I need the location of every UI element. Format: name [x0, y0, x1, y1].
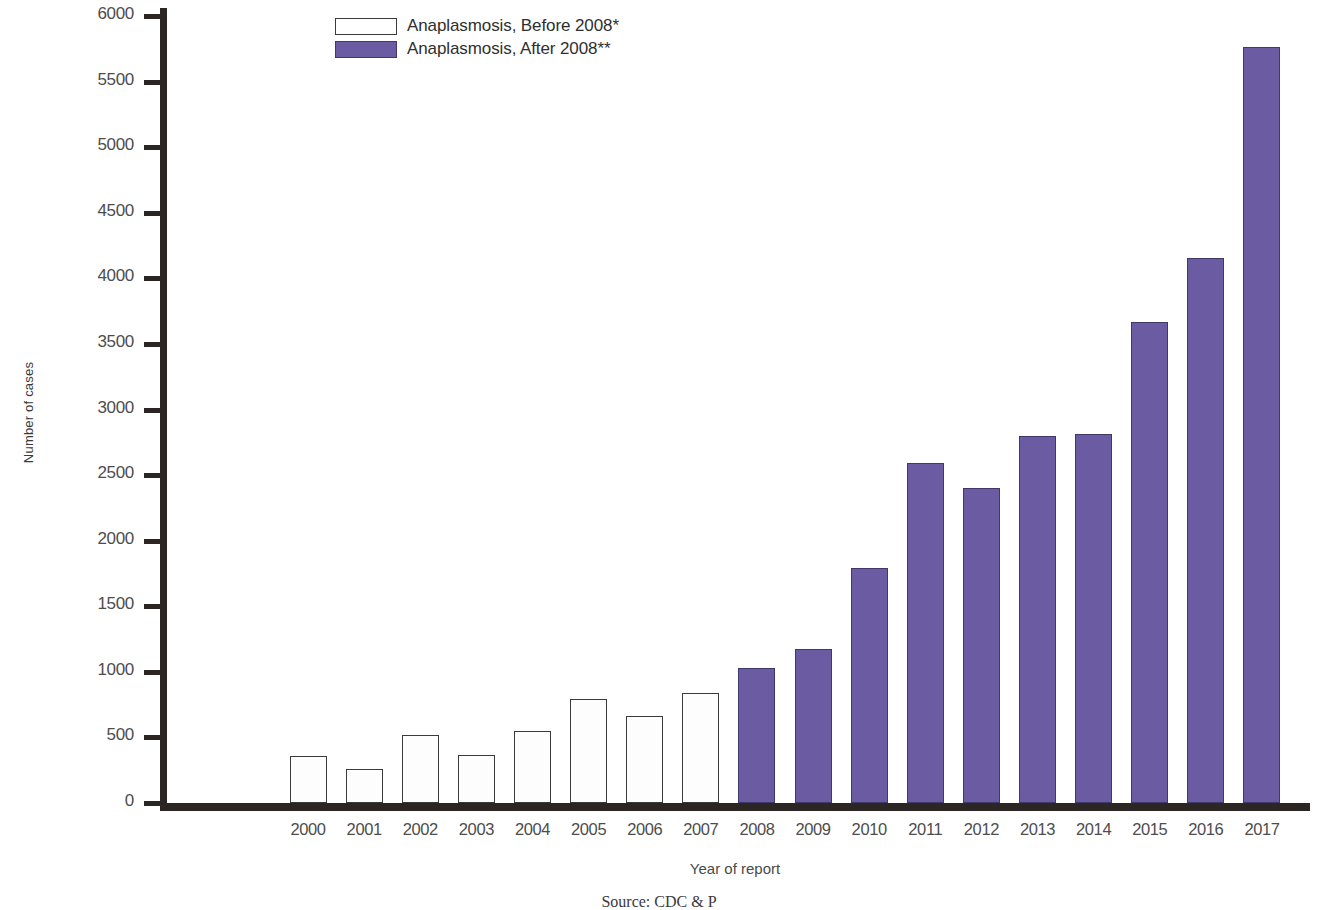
x-axis-tick-label-2008: 2008: [729, 820, 785, 839]
x-axis-tick-label-2013: 2013: [1009, 820, 1065, 839]
y-axis-tick: [144, 670, 162, 675]
x-axis-tick-label-2016: 2016: [1178, 820, 1234, 839]
y-axis-tick-label: 4000: [42, 266, 134, 286]
chart-legend: Anaplasmosis, Before 2008*Anaplasmosis, …: [335, 16, 619, 59]
x-axis-tick-label-2007: 2007: [673, 820, 729, 839]
bar-2015: [1131, 322, 1168, 803]
y-axis-tick-label: 0: [42, 791, 134, 811]
y-axis-tick-label: 2000: [42, 529, 134, 549]
y-axis-tick: [144, 473, 162, 478]
bar-2006: [626, 716, 663, 803]
bar-2004: [514, 731, 551, 803]
bar-2000: [290, 756, 327, 803]
bar-2014: [1075, 434, 1112, 803]
x-axis-tick-label-2012: 2012: [953, 820, 1009, 839]
legend-item-2[interactable]: Anaplasmosis, After 2008**: [335, 39, 619, 59]
bar-2008: [738, 668, 775, 803]
legend-swatch-before: [335, 18, 397, 35]
bar-2007: [682, 693, 719, 803]
y-axis-tick: [144, 801, 162, 806]
legend-label: Anaplasmosis, Before 2008*: [407, 16, 619, 36]
y-axis-tick: [144, 14, 162, 19]
y-axis-tick-label: 6000: [42, 4, 134, 24]
x-axis-tick-label-2011: 2011: [897, 820, 953, 839]
anaplasmosis-cases-bar-chart: Number of cases 050010001500200025003000…: [0, 0, 1318, 910]
legend-label: Anaplasmosis, After 2008**: [407, 39, 610, 59]
y-axis-title: Number of cases: [21, 333, 36, 493]
x-axis-tick-label-2005: 2005: [561, 820, 617, 839]
y-axis-tick: [144, 735, 162, 740]
y-axis-tick: [144, 211, 162, 216]
bar-2017: [1243, 47, 1280, 803]
y-axis-tick-label: 3000: [42, 398, 134, 418]
y-axis-tick-label: 1500: [42, 594, 134, 614]
y-axis-tick-label: 3500: [42, 332, 134, 352]
x-axis-tick-label-2006: 2006: [617, 820, 673, 839]
x-axis-tick-label-2010: 2010: [841, 820, 897, 839]
plot-area: 0500100015002000250030003500400045005000…: [160, 8, 1310, 808]
source-note: Source: CDC & P: [0, 893, 1318, 910]
x-axis-tick-label-2014: 2014: [1066, 820, 1122, 839]
x-axis-tick-label-2000: 2000: [280, 820, 336, 839]
y-axis-tick: [144, 604, 162, 609]
bar-2001: [346, 769, 383, 803]
x-axis-tick-label-2009: 2009: [785, 820, 841, 839]
bar-2010: [851, 568, 888, 803]
x-axis-tick-label-2003: 2003: [448, 820, 504, 839]
x-axis-tick-label-2015: 2015: [1122, 820, 1178, 839]
y-axis-tick-label: 2500: [42, 463, 134, 483]
y-axis-tick-label: 4500: [42, 201, 134, 221]
bar-2012: [963, 488, 1000, 803]
y-axis-tick: [144, 80, 162, 85]
y-axis-tick-label: 5000: [42, 135, 134, 155]
y-axis-tick: [144, 539, 162, 544]
x-axis-title: Year of report: [160, 860, 1310, 877]
bar-2005: [570, 699, 607, 803]
y-axis-tick: [144, 276, 162, 281]
bar-2009: [795, 649, 832, 803]
bar-2016: [1187, 258, 1224, 803]
x-axis-tick-label-2004: 2004: [504, 820, 560, 839]
y-axis-tick-label: 500: [42, 725, 134, 745]
y-axis-tick-label: 5500: [42, 70, 134, 90]
x-axis-tick-label-2017: 2017: [1234, 820, 1290, 839]
y-axis-tick-label: 1000: [42, 660, 134, 680]
bar-2003: [458, 755, 495, 803]
y-axis-tick: [144, 145, 162, 150]
legend-swatch-after: [335, 41, 397, 58]
x-axis-tick-label-2001: 2001: [336, 820, 392, 839]
y-axis-tick: [144, 408, 162, 413]
bar-2013: [1019, 436, 1056, 803]
y-axis-tick: [144, 342, 162, 347]
x-axis-line: [160, 803, 1310, 811]
bar-2011: [907, 463, 944, 803]
x-axis-tick-label-2002: 2002: [392, 820, 448, 839]
legend-item-1[interactable]: Anaplasmosis, Before 2008*: [335, 16, 619, 36]
bar-2002: [402, 735, 439, 803]
